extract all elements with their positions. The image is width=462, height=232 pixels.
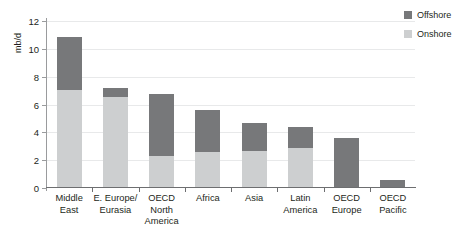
stacked-bar-chart: mb/d 024681012 MiddleEastE. Europe/Euras… xyxy=(0,0,462,232)
x-axis-label: OECDEurope xyxy=(324,193,370,216)
bar-segment-onshore xyxy=(149,156,174,187)
y-tick-mark xyxy=(42,49,46,50)
x-tick-mark xyxy=(139,188,140,192)
bar-segment-offshore xyxy=(242,123,267,151)
x-axis-label: OECD NorthAmerica xyxy=(139,193,185,228)
x-axis-label-line: OECD xyxy=(324,193,370,205)
bar-segment-offshore xyxy=(149,94,174,157)
x-tick-mark xyxy=(231,188,232,192)
x-axis-label-line: Africa xyxy=(185,193,231,205)
bar-oecd-europe xyxy=(334,138,359,187)
x-axis-label-line: OECD North xyxy=(139,193,185,216)
x-axis-label: OECDPacific xyxy=(370,193,416,216)
x-axis-label-line: E. Europe/ xyxy=(92,193,138,205)
x-axis-label-line: Europe xyxy=(324,205,370,217)
y-tick-mark xyxy=(42,160,46,161)
bar-asia xyxy=(242,123,267,187)
y-tick-label: 10 xyxy=(28,43,39,54)
bar-segment-onshore xyxy=(195,152,220,187)
y-tick-label: 12 xyxy=(28,16,39,27)
bar-segment-offshore xyxy=(195,110,220,152)
x-axis-label: LatinAmerica xyxy=(277,193,323,216)
legend-label: Onshore xyxy=(417,29,452,39)
plot-area: 024681012 xyxy=(46,21,416,188)
y-tick-mark xyxy=(42,188,46,189)
legend-swatch-icon xyxy=(404,11,412,19)
legend-label: Offshore xyxy=(417,10,451,20)
bar-middle-east xyxy=(57,37,82,187)
y-tick-mark xyxy=(42,21,46,22)
bar-segment-offshore xyxy=(334,138,359,187)
x-axis-label: Asia xyxy=(231,193,277,205)
x-tick-mark xyxy=(324,188,325,192)
x-tick-mark xyxy=(370,188,371,192)
x-axis-label-line: Middle xyxy=(46,193,92,205)
x-tick-mark xyxy=(277,188,278,192)
bar-segment-onshore xyxy=(103,97,128,187)
y-tick-label: 6 xyxy=(34,99,39,110)
y-tick-label: 8 xyxy=(34,71,39,82)
bar-segment-onshore xyxy=(57,90,82,187)
bar-segment-offshore xyxy=(57,37,82,90)
x-axis-label-line: East xyxy=(46,205,92,217)
bar-segment-onshore xyxy=(288,148,313,187)
bar-segment-onshore xyxy=(242,151,267,187)
bar-oecd-north-america xyxy=(149,94,174,187)
bar-africa xyxy=(195,110,220,187)
x-axis-label-line: Latin xyxy=(277,193,323,205)
y-axis-label: mb/d xyxy=(13,13,23,73)
legend-item: Onshore xyxy=(404,29,462,39)
x-axis-label: MiddleEast xyxy=(46,193,92,216)
x-axis-label: Africa xyxy=(185,193,231,205)
bar-segment-offshore xyxy=(103,88,128,96)
y-tick-mark xyxy=(42,77,46,78)
y-tick-mark xyxy=(42,105,46,106)
gridline xyxy=(47,21,415,22)
bar-segment-offshore xyxy=(380,180,405,187)
y-tick-label: 0 xyxy=(34,183,39,194)
gridline xyxy=(47,77,415,78)
x-axis-label-line: America xyxy=(277,205,323,217)
x-axis-label-line: Eurasia xyxy=(92,205,138,217)
gridline xyxy=(47,49,415,50)
bar-latin-america xyxy=(288,127,313,187)
y-tick-label: 2 xyxy=(34,155,39,166)
chart-legend: OffshoreOnshore xyxy=(404,10,462,48)
legend-item: Offshore xyxy=(404,10,462,20)
y-tick-label: 4 xyxy=(34,127,39,138)
bar-e-europe-eurasia xyxy=(103,88,128,187)
x-axis-label-line: Asia xyxy=(231,193,277,205)
x-axis-category-labels: MiddleEastE. Europe/EurasiaOECD NorthAme… xyxy=(46,193,416,231)
x-axis-label: E. Europe/Eurasia xyxy=(92,193,138,216)
bar-oecd-pacific xyxy=(380,180,405,187)
x-axis-label-line: OECD xyxy=(370,193,416,205)
x-tick-mark xyxy=(185,188,186,192)
bar-segment-offshore xyxy=(288,127,313,148)
x-axis-label-line: Pacific xyxy=(370,205,416,217)
y-tick-mark xyxy=(42,132,46,133)
x-tick-mark xyxy=(92,188,93,192)
legend-swatch-icon xyxy=(404,30,412,38)
x-axis-label-line: America xyxy=(139,216,185,228)
